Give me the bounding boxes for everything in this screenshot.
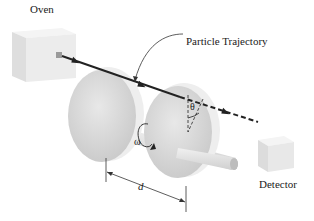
omega-label: ω [134, 136, 141, 147]
particle-trajectory-label: Particle Trajectory [186, 35, 268, 47]
oven-aperture [56, 52, 62, 58]
theta-label: θ [190, 101, 195, 112]
detector-box [258, 136, 294, 172]
oven-label: Oven [30, 3, 54, 15]
detector-label: Detector [259, 178, 297, 190]
d-label: d [138, 180, 144, 192]
axle-end [230, 158, 238, 170]
oven-box [12, 28, 76, 82]
leader-line [135, 34, 183, 80]
